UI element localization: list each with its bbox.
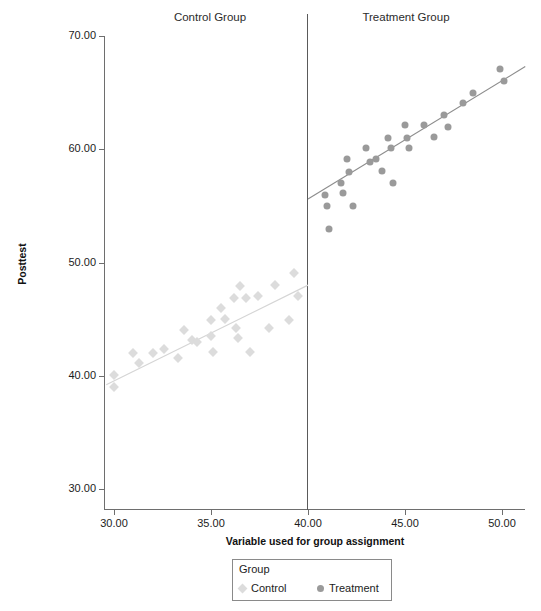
regression-lines (0, 0, 541, 611)
legend-circle-icon (317, 585, 324, 592)
fit-line-treatment (308, 67, 525, 200)
legend: Group Control Treatment (232, 559, 392, 601)
legend-diamond-icon (238, 583, 248, 593)
fit-line-control (106, 285, 308, 385)
chart-figure: Control Group Treatment Group 30.0040.00… (0, 0, 541, 611)
legend-label-control: Control (251, 582, 286, 594)
legend-label-treatment: Treatment (329, 582, 379, 594)
legend-entry-control[interactable]: Control (239, 581, 286, 594)
legend-title: Group (239, 563, 270, 575)
legend-entry-treatment[interactable]: Treatment (317, 581, 379, 594)
